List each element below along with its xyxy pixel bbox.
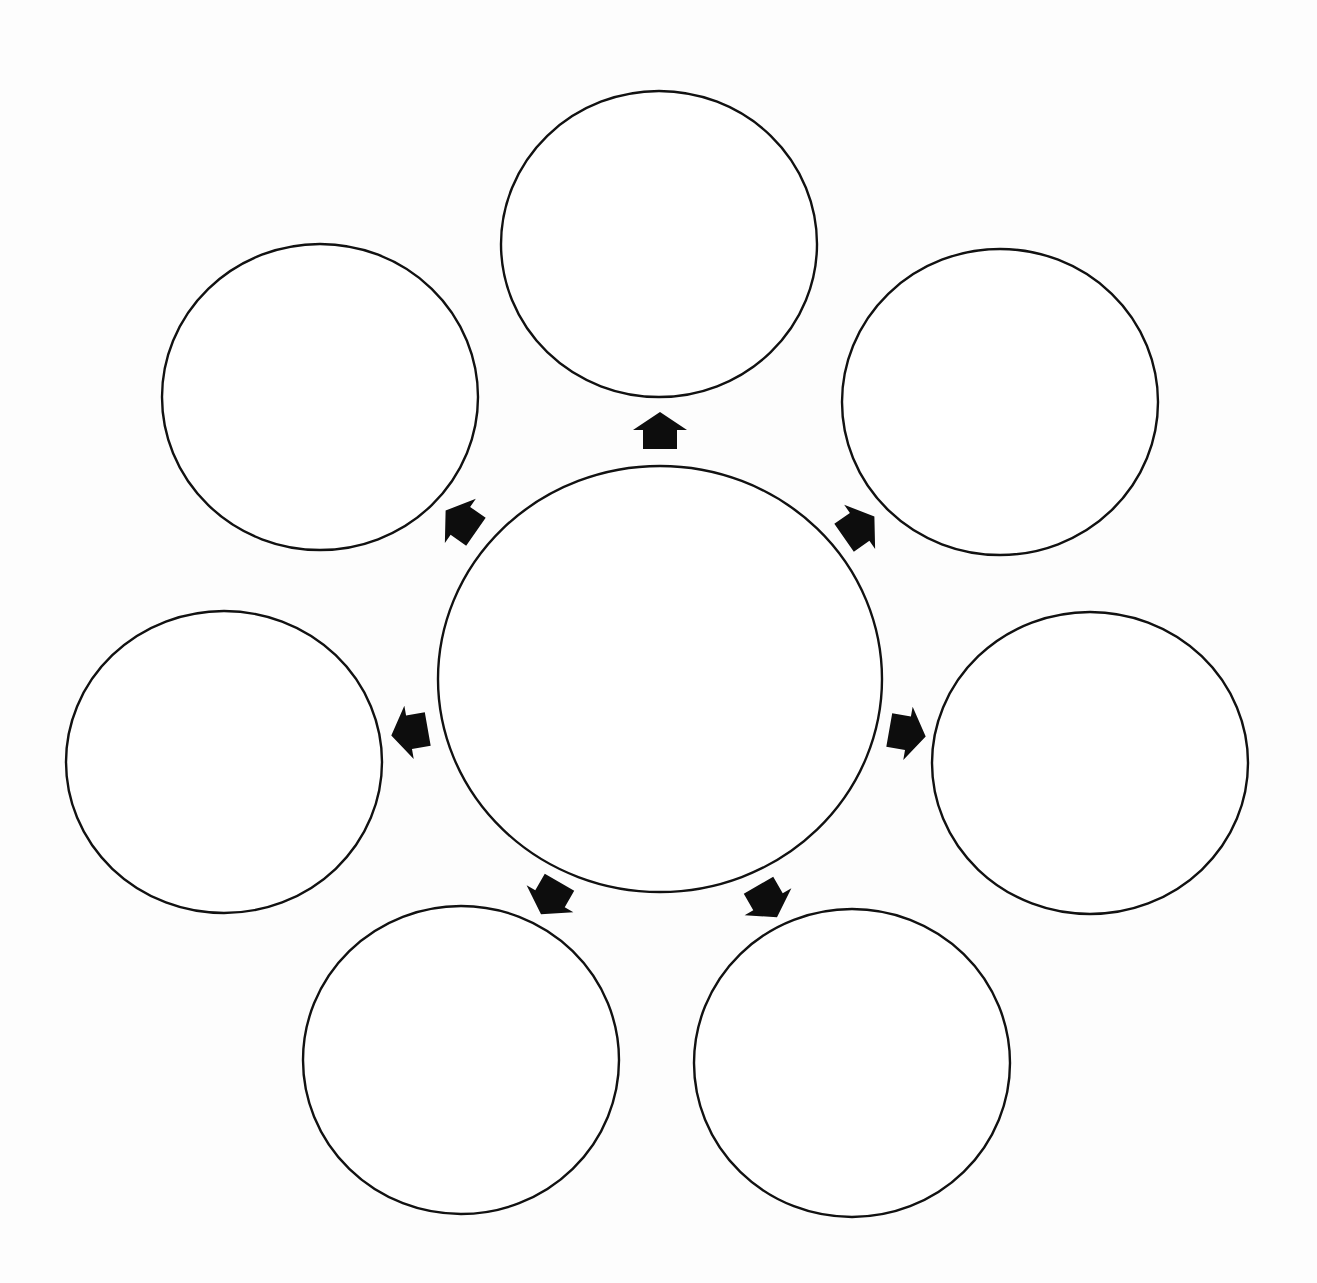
outer-bubble-top-left — [162, 244, 478, 550]
outer-bubble-top — [501, 91, 817, 397]
outer-bubble-bottom-right — [694, 909, 1010, 1217]
center-bubble — [438, 466, 882, 892]
outer-bubble-bottom-left-shape — [303, 906, 619, 1214]
outer-bubble-left — [66, 611, 382, 913]
outer-bubble-top-right-shape — [842, 249, 1158, 555]
bubbles-group — [66, 91, 1248, 1217]
outer-bubble-left-shape — [66, 611, 382, 913]
outer-bubble-top-right — [842, 249, 1158, 555]
arrow-left-icon — [387, 702, 433, 762]
arrow-right-icon — [885, 703, 931, 763]
outer-bubble-top-shape — [501, 91, 817, 397]
outer-bubble-bottom-left — [303, 906, 619, 1214]
center-bubble-shape — [438, 466, 882, 892]
outer-bubble-right-shape — [932, 612, 1248, 914]
outer-bubble-bottom-right-shape — [694, 909, 1010, 1217]
cluster-diagram — [0, 0, 1317, 1283]
outer-bubble-right — [932, 612, 1248, 914]
outer-bubble-top-left-shape — [162, 244, 478, 550]
arrow-top-icon — [633, 412, 687, 449]
